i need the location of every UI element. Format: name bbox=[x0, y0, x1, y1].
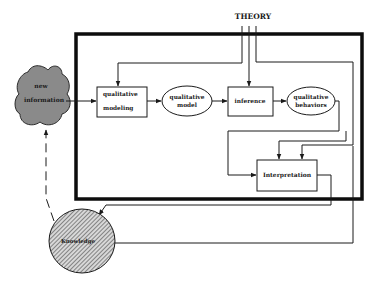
inference-node: inference bbox=[228, 87, 273, 116]
knowledge-label: Knowledge bbox=[61, 238, 95, 245]
new-information-node: new information bbox=[15, 66, 70, 125]
interpretation-node: Interpretation bbox=[257, 160, 317, 191]
new-information-line2: information bbox=[24, 96, 65, 103]
qualitative-model-node: qualitative model bbox=[162, 86, 212, 116]
qualitative-behaviors-line1: qualitative bbox=[294, 94, 329, 101]
qualitative-model-line1: qualitative bbox=[170, 94, 205, 101]
qualitative-behaviors-node: qualitative behaviors bbox=[287, 87, 335, 115]
qualitative-modeling-line2: modeling bbox=[103, 105, 133, 112]
qualitative-modeling-node: qualitative modeling bbox=[97, 87, 147, 117]
qualitative-behaviors-line2: behaviors bbox=[295, 102, 327, 108]
diagram-canvas: THEORY new information qualitative model… bbox=[0, 0, 379, 285]
qualitative-modeling-line1: qualitative bbox=[103, 91, 138, 98]
interpretation-label: Interpretation bbox=[263, 171, 312, 179]
qualitative-model-line2: model bbox=[177, 102, 198, 108]
knowledge-node: Knowledge bbox=[49, 209, 115, 273]
theory-label: THEORY bbox=[235, 12, 272, 21]
new-information-line1: new bbox=[34, 82, 48, 89]
edge-knowledge-newinfo bbox=[46, 130, 54, 221]
inference-label: inference bbox=[235, 98, 266, 104]
